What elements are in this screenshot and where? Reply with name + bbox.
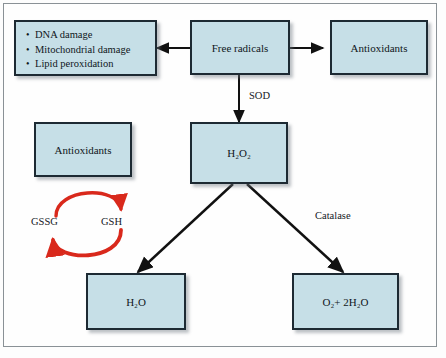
- box-water-label: H₂O: [126, 296, 146, 308]
- box-water: H₂O: [86, 273, 186, 330]
- label-gssg: GSSG: [31, 216, 58, 227]
- box-antioxidants-right-label: Antioxidants: [351, 42, 408, 54]
- box-oxygen-water: O₂+ 2H₂O: [292, 273, 399, 330]
- box-antioxidants-left-label: Antioxidants: [55, 144, 112, 156]
- label-catalase: Catalase: [315, 210, 351, 221]
- box-antioxidants-right: Antioxidants: [330, 20, 428, 75]
- label-gsh: GSH: [101, 216, 122, 227]
- bullet-lipid-peroxidation: Lipid peroxidation: [26, 57, 147, 72]
- bullet-dna-damage: DNA damage: [26, 28, 147, 43]
- bullet-mitochondrial-damage: Mitochondrial damage: [26, 43, 147, 58]
- diagram-canvas: DNA damage Mitochondrial damage Lipid pe…: [0, 0, 446, 358]
- box-free-radicals: Free radicals: [190, 20, 290, 75]
- box-oxygen-water-label: O₂+ 2H₂O: [323, 296, 369, 308]
- box-hydrogen-peroxide: H₂O₂: [190, 122, 288, 184]
- box-antioxidants-left: Antioxidants: [34, 122, 132, 177]
- box-damage-effects: DNA damage Mitochondrial damage Lipid pe…: [14, 20, 157, 76]
- box-hydrogen-peroxide-label: H₂O₂: [227, 147, 251, 159]
- box-free-radicals-label: Free radicals: [212, 42, 269, 54]
- label-sod: SOD: [249, 90, 270, 101]
